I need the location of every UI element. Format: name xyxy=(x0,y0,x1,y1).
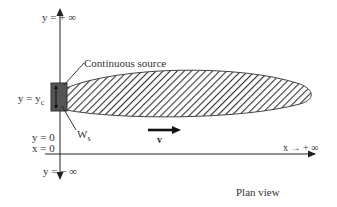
continuous-source-leader xyxy=(64,63,84,85)
label-x-pos-inf: x → + ∞ xyxy=(283,142,318,154)
label-y-yc-main: y = y xyxy=(18,92,41,104)
label-y-neg-inf: y = − ∞ xyxy=(43,165,77,177)
label-continuous-source: Continuous source xyxy=(84,57,166,69)
label-ws-sub: s xyxy=(87,134,90,143)
label-y-pos-inf: y = + ∞ xyxy=(42,11,76,23)
label-x-zero: x = 0 xyxy=(32,142,55,154)
label-ws: Ws xyxy=(77,128,91,145)
label-y-yc: y = yc xyxy=(18,92,44,109)
velocity-arrowhead-icon xyxy=(172,126,181,134)
label-ws-main: W xyxy=(77,128,87,140)
plume-shape xyxy=(66,70,311,117)
continuous-source-box xyxy=(51,83,67,111)
label-y-yc-sub: c xyxy=(41,98,45,107)
plan-view-title: Plan view xyxy=(236,186,280,198)
label-velocity: v xyxy=(157,134,162,146)
